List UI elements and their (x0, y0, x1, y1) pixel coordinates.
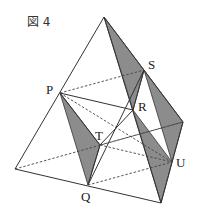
shaded-triangle-a-s-r (104, 17, 144, 110)
shaded-triangle-p-q-t (60, 93, 100, 185)
label-s: S (148, 57, 155, 73)
tetrahedron-diagram (0, 0, 198, 218)
label-p: P (46, 82, 53, 98)
label-u: U (176, 155, 185, 171)
shaded-regions (60, 17, 183, 203)
label-r: R (138, 99, 147, 115)
label-t: T (95, 128, 103, 144)
label-q: Q (81, 189, 90, 205)
